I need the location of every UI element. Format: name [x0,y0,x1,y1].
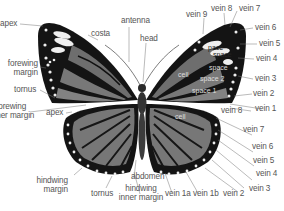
label-vein-4-forewing: vein 4 [256,55,277,64]
label-antenna: antenna [121,17,150,26]
label-forewing-cell: cell [178,71,189,78]
butterfly-diagram: apex costa antenna head forewing margin … [0,0,284,211]
label-abdomen: abdomen [131,173,164,182]
label-vein-1a-hindwing: vein 1a [165,190,191,199]
label-vein-2-forewing: vein 2 [253,90,274,99]
label-costa: costa [91,30,110,39]
label-apex-forewing: apex [0,20,17,29]
label-vein-7-forewing: vein 7 [239,5,260,14]
label-apex-hindwing: apex [46,109,63,118]
label-space-2: space 2 [200,75,225,82]
label-vein-7-hindwing: vein 7 [243,126,264,135]
label-forewing-margin: forewing margin [2,60,38,77]
label-head: head [140,35,158,44]
label-vein-8-hindwing: vein 8 [221,107,242,116]
label-hindwing-cell: cell [175,113,186,120]
label-hindwing-margin: hindwing margin [30,177,68,194]
left-forewing [38,23,138,103]
label-vein-3-forewing: vein 3 [255,75,276,84]
label-vein-1b-hindwing: vein 1b [193,190,219,199]
label-forewing-inner-margin: forewing inner margin [0,103,34,120]
label-vein-1-forewing: vein 1 [255,105,276,114]
label-vein-8-forewing: vein 8 [211,5,232,14]
label-vein-2-hindwing: vein 2 [223,190,244,199]
label-vein-5-forewing: vein 5 [259,40,280,49]
label-vein-6-forewing: vein 6 [255,24,276,33]
label-vein-5-hindwing: vein 5 [253,157,274,166]
label-space-upper-b: space [213,51,232,58]
left-hindwing [63,104,138,175]
label-vein-4-hindwing: vein 4 [256,170,277,179]
label-tornus-forewing: tornus [14,86,36,95]
label-space-upper-a: pace [208,44,223,51]
label-tornus-hindwing: tornus [91,190,113,199]
label-space-1: space 1 [192,87,217,94]
label-vein-3-hindwing: vein 3 [249,185,270,194]
label-vein-9-forewing: vein 9 [186,11,207,20]
label-vein-6-hindwing: vein 6 [252,143,273,152]
label-hindwing-inner-margin: hindwing inner margin [115,185,167,202]
label-space-3: space [209,64,228,71]
